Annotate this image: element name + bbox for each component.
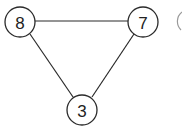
partial-node-edge (177, 12, 182, 30)
node-8: 8 (5, 7, 35, 37)
node-7: 7 (128, 7, 158, 37)
graph-diagram: 8 7 3 (0, 0, 182, 126)
edge-8-3 (30, 34, 73, 97)
node-label: 7 (138, 14, 147, 33)
edge-7-3 (92, 34, 134, 97)
node-3: 3 (67, 95, 97, 125)
node-label: 3 (77, 102, 86, 121)
node-label: 8 (15, 14, 24, 33)
